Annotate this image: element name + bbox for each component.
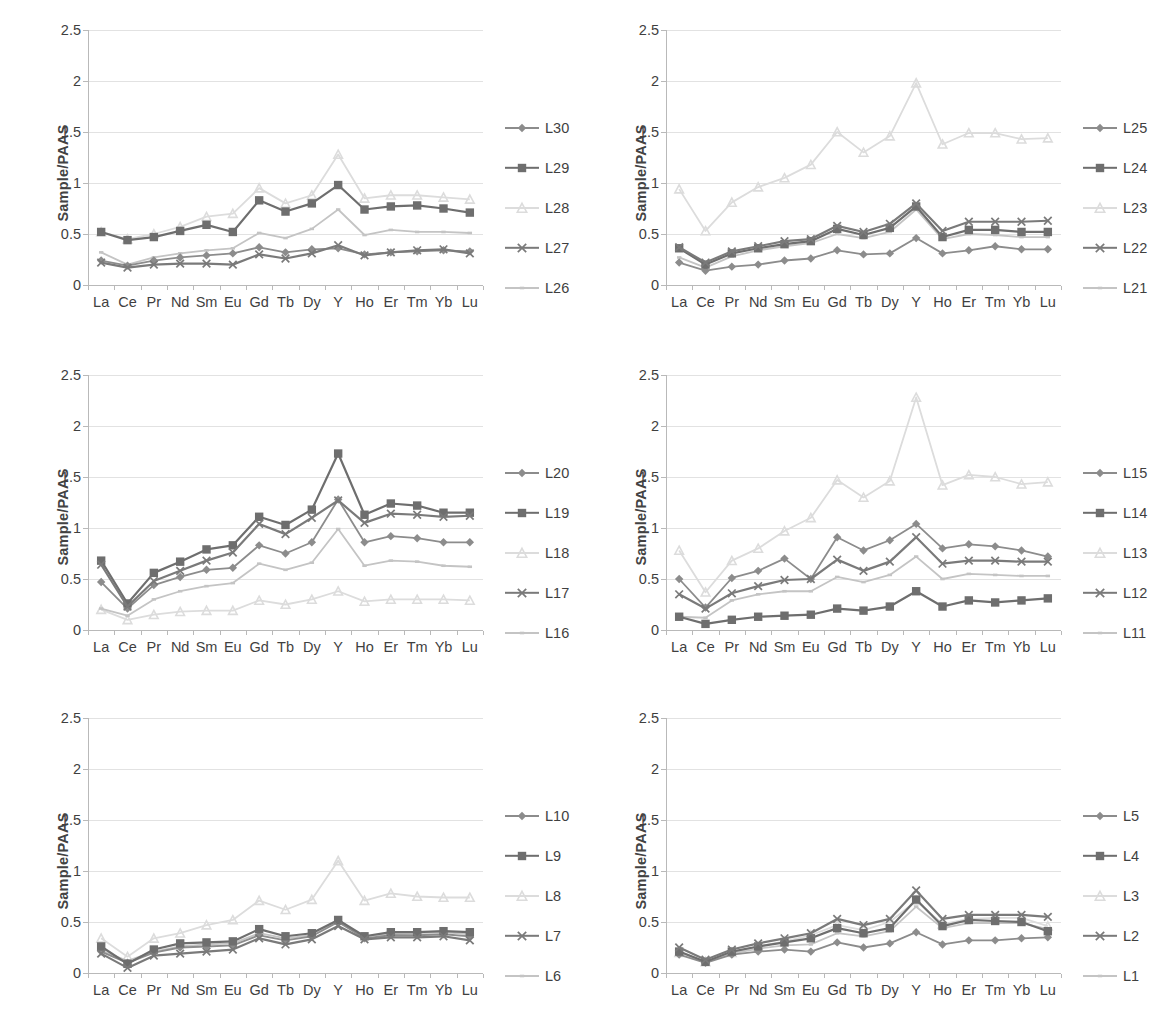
legend-item-L27[interactable]: L27 [505, 228, 569, 268]
legend-item-L17[interactable]: L17 [505, 573, 569, 613]
legend-item-L4[interactable]: L4 [1083, 836, 1139, 876]
data-point [255, 925, 263, 933]
gridline [666, 630, 1061, 631]
x-tick-label: Tb [277, 294, 294, 310]
data-point [229, 249, 237, 257]
x-tick-mark [325, 974, 326, 978]
data-point [675, 258, 683, 266]
x-tick-mark [719, 631, 720, 635]
chart-panel-top-left: Sample/PAAS00.511.522.5LaCePrNdSmEuGdTbD… [0, 0, 578, 345]
legend-swatch-cross-icon [505, 241, 539, 255]
x-tick-mark [167, 974, 168, 978]
x-tick-label: La [671, 639, 687, 655]
legend-item-L26[interactable]: L26 [505, 268, 569, 308]
legend-item-L16[interactable]: L16 [505, 613, 569, 653]
data-point [439, 204, 447, 212]
legend-item-L3[interactable]: L3 [1083, 876, 1139, 916]
x-tick-mark [692, 974, 693, 978]
x-tick-label: La [671, 982, 687, 998]
x-tick-mark [378, 286, 379, 290]
legend-item-L14[interactable]: L14 [1083, 493, 1147, 533]
legend-item-L15[interactable]: L15 [1083, 453, 1147, 493]
legend-swatch-line-icon [505, 626, 539, 640]
legend-swatch-triangle-icon [1083, 201, 1117, 215]
legend-label: L30 [545, 120, 569, 136]
x-tick-mark [246, 286, 247, 290]
x-tick-mark [1061, 974, 1062, 978]
legend-item-L22[interactable]: L22 [1083, 228, 1147, 268]
legend-item-L20[interactable]: L20 [505, 453, 569, 493]
data-point [229, 228, 237, 236]
legend-item-L24[interactable]: L24 [1083, 148, 1147, 188]
series-L28 [97, 150, 474, 243]
x-tick-mark [798, 631, 799, 635]
x-tick-mark [1035, 286, 1036, 290]
legend-item-L8[interactable]: L8 [505, 876, 569, 916]
x-tick-label: Ho [933, 639, 952, 655]
legend-item-L2[interactable]: L2 [1083, 916, 1139, 956]
legend-label: L29 [545, 160, 569, 176]
legend-item-L29[interactable]: L29 [505, 148, 569, 188]
x-tick-label: Eu [802, 982, 820, 998]
series-layer [88, 30, 483, 285]
series-layer [88, 718, 483, 973]
legend-item-L21[interactable]: L21 [1083, 268, 1147, 308]
data-point [886, 602, 894, 610]
legend-swatch-cross-icon [1083, 586, 1117, 600]
data-point [97, 934, 106, 942]
data-point [675, 546, 684, 554]
legend-item-L7[interactable]: L7 [505, 916, 569, 956]
x-tick-label: Y [911, 639, 921, 655]
data-point [754, 613, 762, 621]
legend-item-L10[interactable]: L10 [505, 796, 569, 836]
legend-label: L14 [1123, 505, 1147, 521]
legend-item-L11[interactable]: L11 [1083, 613, 1147, 653]
x-tick-label: Dy [881, 639, 899, 655]
legend-label: L23 [1123, 200, 1147, 216]
legend-item-L12[interactable]: L12 [1083, 573, 1147, 613]
data-point [202, 545, 210, 553]
legend-item-L5[interactable]: L5 [1083, 796, 1139, 836]
x-tick-label: Nd [171, 294, 190, 310]
x-tick-mark [1008, 286, 1009, 290]
legend-label: L22 [1123, 240, 1147, 256]
legend-swatch-diamond-icon [505, 121, 539, 135]
x-tick-mark [325, 631, 326, 635]
x-tick-label: Sm [774, 982, 796, 998]
legend-swatch-cross-icon [1083, 241, 1117, 255]
data-point [308, 514, 316, 522]
legend-item-L23[interactable]: L23 [1083, 188, 1147, 228]
legend-item-L6[interactable]: L6 [505, 956, 569, 996]
legend-item-L18[interactable]: L18 [505, 533, 569, 573]
legend-label: L28 [545, 200, 569, 216]
x-tick-label: Yb [435, 982, 453, 998]
legend-item-L9[interactable]: L9 [505, 836, 569, 876]
legend-item-L25[interactable]: L25 [1083, 108, 1147, 148]
data-point [991, 936, 999, 944]
x-tick-label: Lu [462, 639, 478, 655]
x-tick-mark [1035, 974, 1036, 978]
legend-item-L28[interactable]: L28 [505, 188, 569, 228]
chart-panel-middle-left: Sample/PAAS00.511.522.5LaCePrNdSmEuGdTbD… [0, 345, 578, 688]
legend-item-L30[interactable]: L30 [505, 108, 569, 148]
legend-item-L1[interactable]: L1 [1083, 956, 1139, 996]
x-tick-mark [1008, 631, 1009, 635]
legend-item-L13[interactable]: L13 [1083, 533, 1147, 573]
legend-item-L19[interactable]: L19 [505, 493, 569, 533]
x-tick-label: Gd [249, 982, 268, 998]
y-tick-label: 0 [651, 965, 659, 981]
x-tick-mark [483, 631, 484, 635]
legend-label: L21 [1123, 280, 1147, 296]
data-point [701, 620, 709, 628]
x-tick-mark [771, 286, 772, 290]
x-tick-mark [982, 631, 983, 635]
legend-label: L12 [1123, 585, 1147, 601]
x-tick-label: Tm [407, 294, 428, 310]
legend-swatch-cross-icon [1083, 929, 1117, 943]
x-tick-label: Gd [249, 294, 268, 310]
data-point [1017, 228, 1025, 236]
data-point [833, 924, 841, 932]
data-point [281, 549, 289, 557]
x-tick-label: Y [333, 294, 343, 310]
series-L23 [675, 79, 1052, 235]
